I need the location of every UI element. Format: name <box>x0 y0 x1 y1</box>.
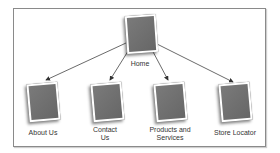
about-us-page-icon[interactable] <box>26 82 60 123</box>
store-locator-page-icon[interactable] <box>218 82 252 123</box>
products-label: Products and Services <box>145 126 195 142</box>
arrow-store-locator <box>155 43 233 82</box>
contact-us-page-icon[interactable] <box>90 82 124 123</box>
products-page-icon[interactable] <box>153 82 187 123</box>
home-page-icon[interactable] <box>125 14 159 54</box>
arrow-about-us <box>46 43 126 80</box>
contact-us-label: Contact Us <box>90 126 120 142</box>
about-us-label: About Us <box>18 129 68 137</box>
store-locator-label: Store Locator <box>207 129 263 137</box>
home-label: Home <box>120 60 160 68</box>
